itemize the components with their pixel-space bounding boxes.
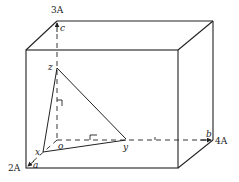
- label-4A: 4A: [215, 136, 228, 146]
- label-3A: 3A: [51, 5, 64, 15]
- label-z: z: [47, 62, 53, 72]
- label-a: a: [33, 160, 38, 170]
- box-solid-edges: [26, 21, 213, 168]
- label-c: c: [60, 23, 65, 33]
- right-angle-marks: [57, 100, 155, 140]
- triangle-xyz: [43, 68, 126, 152]
- label-o: o: [58, 141, 64, 151]
- axis-arrows: [28, 23, 211, 166]
- box-diagram: 3A c z o y x a 2A b 4A: [0, 0, 239, 182]
- label-2A: 2A: [8, 163, 21, 173]
- box-hidden-edges: [30, 34, 208, 164]
- label-y: y: [122, 142, 129, 152]
- label-b: b: [206, 129, 212, 139]
- label-x: x: [35, 147, 40, 157]
